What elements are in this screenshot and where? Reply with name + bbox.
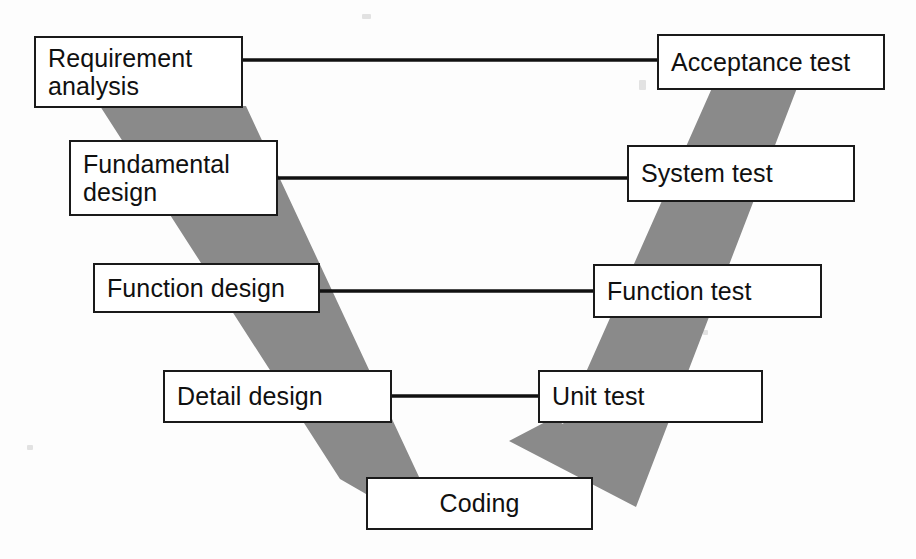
node-label-detail-design: Detail design bbox=[177, 382, 323, 411]
node-label-requirement-analysis: Requirement analysis bbox=[48, 44, 192, 101]
node-label-system-test: System test bbox=[641, 159, 773, 188]
node-label-fundamental-design: Fundamental design bbox=[83, 150, 230, 207]
node-function-test[interactable]: Function test bbox=[593, 264, 822, 318]
node-coding[interactable]: Coding bbox=[366, 477, 593, 530]
scan-speck bbox=[703, 330, 708, 335]
scan-speck bbox=[639, 80, 646, 90]
node-label-function-design: Function design bbox=[107, 274, 285, 303]
node-label-acceptance-test: Acceptance test bbox=[671, 48, 850, 77]
node-detail-design[interactable]: Detail design bbox=[163, 370, 392, 423]
scan-speck bbox=[27, 445, 33, 450]
node-function-design[interactable]: Function design bbox=[93, 263, 320, 313]
node-requirement-analysis[interactable]: Requirement analysis bbox=[34, 36, 243, 108]
node-label-coding: Coding bbox=[440, 489, 520, 518]
node-system-test[interactable]: System test bbox=[627, 145, 855, 202]
node-label-unit-test: Unit test bbox=[552, 382, 645, 411]
v-model-diagram: Requirement analysis Fundamental design … bbox=[0, 0, 916, 559]
scan-speck bbox=[313, 348, 319, 353]
node-fundamental-design[interactable]: Fundamental design bbox=[69, 140, 278, 216]
scan-speck bbox=[362, 14, 371, 19]
node-unit-test[interactable]: Unit test bbox=[538, 370, 763, 423]
node-acceptance-test[interactable]: Acceptance test bbox=[657, 34, 885, 90]
node-label-function-test: Function test bbox=[607, 277, 751, 306]
